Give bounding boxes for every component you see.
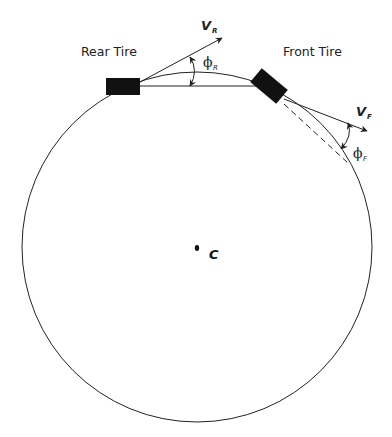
front-velocity-subscript: F (367, 113, 372, 121)
front-angle-arc (341, 123, 349, 149)
rear-angle-subscript: R (213, 64, 218, 72)
front-dashed-line (284, 104, 348, 163)
rear-velocity-subscript: R (212, 27, 217, 35)
diagram-canvas: Rear Tire Front Tire V R V F ϕ R ϕ F C (0, 0, 392, 437)
rear-tire-label: Rear Tire (81, 44, 137, 59)
rear-angle-label: ϕ (203, 54, 213, 70)
rear-angle-arc (190, 57, 195, 86)
front-tire (250, 68, 288, 104)
front-velocity-label: V (356, 104, 367, 119)
front-angle-label: ϕ (353, 145, 363, 161)
center-label: C (209, 247, 219, 262)
front-angle-subscript: F (363, 155, 368, 163)
rear-velocity-label: V (201, 18, 212, 33)
rear-tire (106, 78, 140, 95)
turning-diagram: Rear Tire Front Tire V R V F ϕ R ϕ F C (0, 0, 392, 437)
center-point (195, 245, 199, 251)
front-tire-label: Front Tire (283, 44, 342, 59)
front-velocity-vector (284, 99, 367, 131)
